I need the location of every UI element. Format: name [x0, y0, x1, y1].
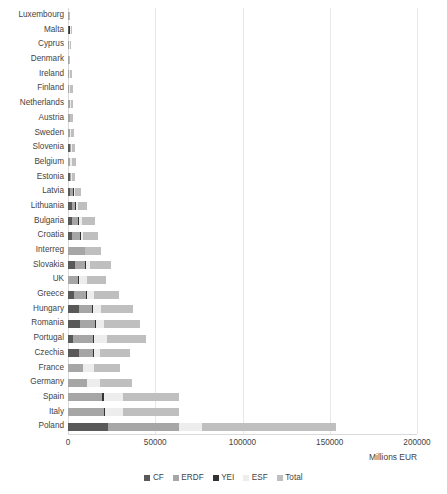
category-label: Italy: [0, 405, 64, 420]
bar-row: [68, 81, 417, 96]
stacked-bar: [68, 70, 72, 78]
bar-segment-total: [70, 41, 71, 49]
category-label: Austria: [0, 111, 64, 126]
category-label: Estonia: [0, 170, 64, 185]
stacked-bar: [68, 26, 72, 34]
bar-segment-erdf: [68, 364, 83, 372]
category-label: UK: [0, 272, 64, 287]
category-label: Slovenia: [0, 140, 64, 155]
bar-segment-cf: [68, 423, 108, 431]
bar-segment-erdf: [72, 232, 80, 240]
bar-segment-total: [72, 173, 75, 181]
bar-segment-total: [72, 144, 75, 152]
bar-segment-total: [70, 85, 72, 93]
bar-row: [68, 390, 417, 405]
stacked-bar: [68, 144, 75, 152]
category-label: Finland: [0, 81, 64, 96]
bar-segment-total: [202, 423, 336, 431]
stacked-bar: [68, 100, 73, 108]
category-label: Malta: [0, 23, 64, 38]
category-label: Germany: [0, 375, 64, 390]
category-label: Poland: [0, 419, 64, 434]
category-label: France: [0, 361, 64, 376]
bar-row: [68, 331, 417, 346]
stacked-bar: [68, 56, 70, 64]
legend-item-total[interactable]: Total: [277, 473, 303, 482]
stacked-bar: [68, 114, 73, 122]
bar-row: [68, 346, 417, 361]
stacked-bar: [68, 291, 119, 299]
stacked-bar: [68, 12, 70, 20]
bar-segment-total: [90, 261, 111, 269]
bar-segment-total: [82, 217, 95, 225]
bar-segment-cf: [68, 261, 75, 269]
bar-segment-erdf: [68, 393, 102, 401]
legend-item-cf[interactable]: CF: [144, 473, 163, 482]
x-tick-label: 0: [66, 438, 71, 447]
stacked-bar: [68, 158, 76, 166]
bar-row: [68, 287, 417, 302]
stacked-bar: [68, 202, 87, 210]
bar-row: [68, 272, 417, 287]
bar-segment-erdf: [74, 291, 87, 299]
legend-item-yei[interactable]: YEI: [213, 473, 235, 482]
bar-segment-total: [71, 129, 74, 137]
x-tick-label: 50000: [144, 438, 167, 447]
bar-segment-erdf: [68, 247, 85, 255]
bar-row: [68, 37, 417, 52]
category-label: Lithuania: [0, 199, 64, 214]
legend-item-esf[interactable]: ESF: [243, 473, 267, 482]
legend-swatch-cf-icon: [144, 475, 150, 481]
bar-segment-total: [94, 291, 119, 299]
bar-row: [68, 228, 417, 243]
stacked-bar: [68, 305, 133, 313]
stacked-bar: [68, 188, 81, 196]
legend-label: ESF: [252, 473, 268, 482]
bar-segment-erdf: [73, 335, 93, 343]
stacked-bar: [68, 41, 71, 49]
bar-row: [68, 258, 417, 273]
bar-segment-total: [107, 335, 146, 343]
bar-segment-erdf: [68, 379, 87, 387]
bar-segment-total: [94, 364, 120, 372]
bar-row: [68, 405, 417, 420]
legend-label: Total: [285, 473, 302, 482]
bar-segment-esf: [79, 276, 88, 284]
category-label: Romania: [0, 316, 64, 331]
legend-label: CF: [153, 473, 164, 482]
stacked-bar: [68, 379, 132, 387]
bar-row: [68, 23, 417, 38]
category-label: Belgium: [0, 155, 64, 170]
bar-segment-cf: [68, 349, 79, 357]
bar-row: [68, 67, 417, 82]
category-label: Spain: [0, 390, 64, 405]
bar-row: [68, 8, 417, 23]
stacked-bar: [68, 85, 73, 93]
bar-segment-total: [71, 26, 72, 34]
bar-row: [68, 316, 417, 331]
bar-row: [68, 214, 417, 229]
bar-segment-erdf: [75, 261, 85, 269]
stacked-bar: [68, 408, 179, 416]
category-label: Sweden: [0, 126, 64, 141]
x-axis-title: Millions EUR: [369, 452, 417, 462]
bar-segment-cf: [68, 305, 79, 313]
bar-row: [68, 140, 417, 155]
bar-segment-total: [87, 276, 106, 284]
legend-swatch-esf-icon: [243, 475, 249, 481]
bar-segment-total: [123, 393, 178, 401]
bar-segment-esf: [179, 423, 202, 431]
legend-item-erdf[interactable]: ERDF: [173, 473, 204, 482]
bar-segment-total: [123, 408, 178, 416]
category-label: Luxembourg: [0, 8, 64, 23]
category-label: Latvia: [0, 184, 64, 199]
x-tick-label: 200000: [403, 438, 430, 447]
category-label: Hungary: [0, 302, 64, 317]
bar-row: [68, 155, 417, 170]
stacked-bar: [68, 247, 101, 255]
bar-segment-total: [69, 12, 70, 20]
gridline-200000: [417, 8, 418, 434]
category-label: Slovakia: [0, 258, 64, 273]
stacked-bar: [68, 423, 336, 431]
bar-segment-erdf: [79, 349, 93, 357]
